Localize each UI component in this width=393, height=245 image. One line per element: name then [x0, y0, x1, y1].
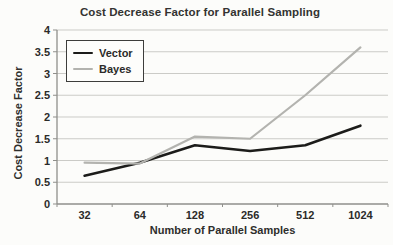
vector-line-swatch-icon — [73, 52, 93, 55]
legend-label-bayes: Bayes — [99, 64, 131, 75]
plot-area: 00.511.522.533.5432641282565121024 — [0, 0, 393, 245]
svg-text:64: 64 — [134, 209, 147, 221]
svg-text:128: 128 — [186, 209, 204, 221]
legend-item-bayes: Bayes — [73, 61, 137, 77]
svg-text:3: 3 — [44, 68, 50, 80]
svg-text:256: 256 — [241, 209, 259, 221]
chart: Cost Decrease Factor for Parallel Sampli… — [0, 0, 393, 245]
series-line-vector — [85, 126, 361, 176]
svg-text:1.5: 1.5 — [35, 133, 50, 145]
svg-text:0.5: 0.5 — [35, 176, 50, 188]
svg-text:1024: 1024 — [348, 209, 373, 221]
svg-text:0: 0 — [44, 198, 50, 210]
legend: Vector Bayes — [66, 40, 144, 82]
svg-text:512: 512 — [296, 209, 314, 221]
svg-text:3.5: 3.5 — [35, 46, 50, 58]
legend-item-vector: Vector — [73, 45, 137, 61]
svg-text:2.5: 2.5 — [35, 89, 50, 101]
svg-text:32: 32 — [78, 209, 90, 221]
legend-label-vector: Vector — [99, 48, 133, 59]
svg-text:2: 2 — [44, 111, 50, 123]
bayes-line-swatch-icon — [73, 68, 93, 71]
svg-text:4: 4 — [44, 24, 51, 36]
x-axis-title: Number of Parallel Samples — [57, 224, 388, 236]
svg-text:1: 1 — [44, 155, 50, 167]
